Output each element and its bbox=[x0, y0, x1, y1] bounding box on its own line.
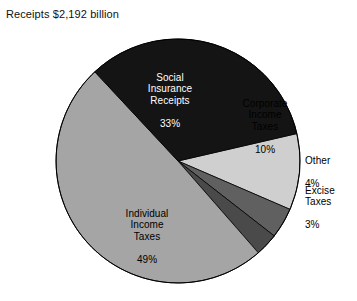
slice-label-social-insurance-receipts-text: Social Insurance Receipts bbox=[128, 72, 212, 107]
pie-chart-figure: Receipts $2,192 billion Social Insurance… bbox=[0, 0, 357, 301]
slice-value-social-insurance-receipts: 33% bbox=[128, 118, 212, 130]
slice-label-social-insurance-receipts: Social Insurance Receipts 33% bbox=[128, 60, 212, 141]
slice-label-other-text: Other bbox=[305, 155, 355, 167]
slice-value-excise-taxes: 3% bbox=[305, 219, 355, 231]
slice-label-corporate-income-taxes: Corporate Income Taxes 10% bbox=[228, 86, 302, 167]
slice-value-corporate-income-taxes: 10% bbox=[228, 144, 302, 156]
slice-value-individual-income-taxes: 49% bbox=[104, 254, 190, 266]
slice-label-excise-taxes-text: Excise Taxes bbox=[305, 185, 355, 208]
slice-label-corporate-income-taxes-text: Corporate Income Taxes bbox=[228, 98, 302, 133]
slice-label-individual-income-taxes: Individual Income Taxes 49% bbox=[104, 196, 190, 277]
slice-label-individual-income-taxes-text: Individual Income Taxes bbox=[104, 208, 190, 243]
slice-label-excise-taxes: Excise Taxes 3% bbox=[305, 173, 355, 242]
